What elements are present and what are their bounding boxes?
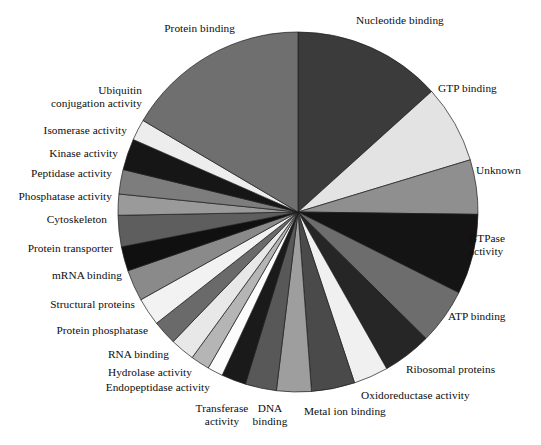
label-atp-binding: ATP binding — [448, 310, 506, 323]
label-hydrolase-activity: Hydrolase activity — [0, 366, 192, 379]
label-ribosomal-proteins: Ribosomal proteins — [406, 363, 495, 376]
label-isomerase-activity: Isomerase activity — [0, 124, 127, 137]
label-rna-binding: RNA binding — [0, 348, 169, 361]
label-gtpase-activity: GTPase activity — [469, 232, 505, 257]
label-gtp-binding: GTP binding — [438, 82, 497, 95]
label-cytoskeleton: Cytoskeleton — [0, 213, 107, 226]
label-protein-phosphatase: Protein phosphatase — [0, 324, 148, 337]
pie-chart-figure: Nucleotide bindingGTP bindingUnknownGTPa… — [0, 0, 541, 445]
label-nucleotide-binding: Nucleotide binding — [356, 14, 444, 27]
label-transferase: Transferase activity — [162, 402, 282, 427]
label-endopeptidase: Endopeptidase activity — [0, 381, 210, 394]
label-structural-proteins: Structural proteins — [0, 298, 135, 311]
label-peptidase: Peptidase activity — [0, 167, 112, 180]
label-mrna-binding: mRNA binding — [0, 269, 122, 282]
label-protein-transporter: Protein transporter — [0, 242, 113, 255]
pie-slices-group — [118, 32, 478, 392]
label-oxidoreductase: Oxidoreductase activity — [361, 389, 470, 402]
label-phosphatase: Phosphatase activity — [0, 190, 112, 203]
label-unknown: Unknown — [476, 164, 521, 177]
label-ubiquitin: Ubiquitin conjugation activity — [0, 84, 142, 109]
label-protein-binding: Protein binding — [0, 22, 235, 35]
label-kinase-activity: Kinase activity — [0, 147, 118, 160]
